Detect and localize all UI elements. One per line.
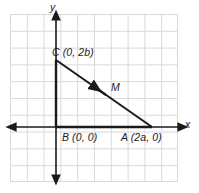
x-axis-label: x bbox=[185, 119, 190, 130]
y-axis-label: y bbox=[50, 2, 55, 13]
midpoint-label-m: M bbox=[111, 82, 120, 93]
point-label-a: A (2a, 0) bbox=[121, 132, 162, 143]
midpoint-marker-arrow bbox=[96, 88, 106, 95]
figure-vector-layer bbox=[0, 0, 199, 193]
point-label-c: C (0, 2b) bbox=[52, 47, 94, 58]
geometry-figure: C (0, 2b) B (0, 0) A (2a, 0) M y x bbox=[0, 0, 199, 193]
point-label-b: B (0, 0) bbox=[62, 132, 97, 143]
